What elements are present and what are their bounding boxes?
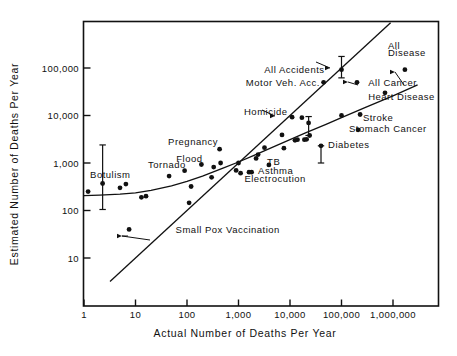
y-tick-100000: 100,000 bbox=[42, 63, 79, 74]
data-point bbox=[209, 175, 214, 180]
point-label: Heart Disease bbox=[368, 91, 435, 102]
leader-arrow-icon bbox=[343, 80, 348, 84]
y-tick-10: 10 bbox=[68, 253, 79, 264]
data-point bbox=[319, 143, 324, 148]
y-axis-tick-labels: 100,000 10,000 1,000 100 10 bbox=[42, 63, 79, 264]
x-axis-tick-labels: 1 10 100 1,000 10,000 100,000 1,000,000 bbox=[81, 309, 416, 320]
point-label: Diabetes bbox=[328, 139, 370, 150]
point-label: Electrocution bbox=[244, 173, 305, 184]
identity-line-path bbox=[110, 23, 391, 282]
leader-arrow-icon bbox=[390, 70, 395, 74]
point-label: All Cancer bbox=[368, 77, 417, 88]
y-tick-10000: 10,000 bbox=[48, 110, 79, 121]
point-label: Disease bbox=[388, 47, 426, 58]
data-point bbox=[187, 200, 192, 205]
error-bar bbox=[318, 146, 324, 163]
x-tick-10: 10 bbox=[130, 309, 141, 320]
x-axis-title: Actual Number of Deaths Per Year bbox=[154, 327, 337, 339]
y-axis-title: Estimated Number of Deaths Per Year bbox=[8, 63, 20, 266]
data-point bbox=[403, 67, 408, 72]
identity-line bbox=[110, 23, 391, 282]
data-point bbox=[144, 194, 149, 199]
data-point bbox=[86, 189, 91, 194]
x-tick-1000000: 1,000,000 bbox=[370, 309, 416, 320]
data-point bbox=[339, 67, 344, 72]
point-label: Tornado bbox=[148, 159, 186, 170]
data-point bbox=[306, 121, 311, 126]
data-point bbox=[139, 195, 144, 200]
x-tick-100: 100 bbox=[178, 309, 195, 320]
data-point bbox=[217, 147, 222, 152]
y-axis-ticks bbox=[84, 68, 91, 258]
chart-svg: 100,000 10,000 1,000 100 10 1 10 100 1,0… bbox=[0, 0, 457, 356]
point-label: Small Pox Vaccination bbox=[176, 224, 280, 235]
data-point bbox=[321, 80, 326, 85]
x-tick-100000: 100,000 bbox=[323, 309, 360, 320]
leader-line bbox=[122, 236, 150, 240]
data-point bbox=[262, 145, 267, 150]
data-point bbox=[304, 137, 309, 142]
data-point bbox=[118, 185, 123, 190]
data-point bbox=[236, 161, 241, 166]
point-label: Stroke bbox=[363, 112, 393, 123]
data-point bbox=[290, 115, 295, 120]
data-point bbox=[167, 174, 172, 179]
data-point bbox=[256, 152, 261, 157]
y-tick-1000: 1,000 bbox=[53, 158, 79, 169]
leader-arrow-icon bbox=[117, 234, 122, 238]
x-tick-10000: 10,000 bbox=[274, 309, 305, 320]
data-point bbox=[238, 171, 243, 176]
data-point bbox=[358, 112, 363, 117]
data-point bbox=[234, 168, 239, 173]
x-tick-1: 1 bbox=[81, 309, 87, 320]
data-points bbox=[86, 67, 408, 232]
point-label: Homicide bbox=[244, 106, 288, 117]
plot-frame bbox=[84, 22, 439, 307]
data-point bbox=[280, 133, 285, 138]
data-point bbox=[100, 181, 105, 186]
point-label: Botulism bbox=[90, 169, 130, 180]
data-point bbox=[124, 182, 129, 187]
point-labels: All AccidentsAllDiseaseMotor Veh. Acc.Al… bbox=[90, 40, 435, 235]
point-label: Motor Veh. Acc. bbox=[246, 77, 320, 88]
point-label: Pregnancy bbox=[168, 136, 218, 147]
data-point bbox=[282, 146, 287, 151]
data-point bbox=[307, 133, 312, 138]
error-bar bbox=[338, 56, 344, 77]
risk-perception-chart-figure: 100,000 10,000 1,000 100 10 1 10 100 1,0… bbox=[0, 0, 457, 356]
data-point bbox=[218, 161, 223, 166]
data-point bbox=[189, 184, 194, 189]
data-point bbox=[339, 113, 344, 118]
leader-lines bbox=[117, 62, 404, 240]
x-axis-ticks bbox=[84, 300, 393, 307]
point-label: Stomach Cancer bbox=[349, 123, 427, 134]
data-point bbox=[127, 227, 132, 232]
y-tick-100: 100 bbox=[62, 205, 79, 216]
data-point bbox=[295, 137, 300, 142]
point-label: All Accidents bbox=[264, 64, 324, 75]
data-point bbox=[211, 165, 216, 170]
data-point bbox=[300, 115, 305, 120]
x-tick-1000: 1,000 bbox=[226, 309, 252, 320]
